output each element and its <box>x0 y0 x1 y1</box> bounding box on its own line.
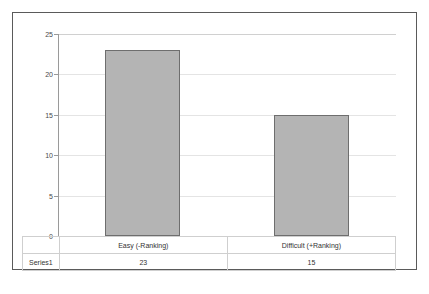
y-tick-mark-20 <box>54 74 58 75</box>
table-header-category-1: Difficult (+Ranking) <box>227 237 395 254</box>
chart-frame: 0510152025 Easy (-Ranking) Difficult (+R… <box>12 12 417 270</box>
y-tick-mark-15 <box>54 115 58 116</box>
y-tick-mark-10 <box>54 155 58 156</box>
bar-1 <box>274 115 349 236</box>
plot-area <box>58 34 396 236</box>
table-value-1: 15 <box>227 254 395 271</box>
y-axis-line <box>58 34 59 236</box>
y-tick-label-5: 5 <box>49 192 53 199</box>
y-tick-label-25: 25 <box>45 31 53 38</box>
chart-data-table: Easy (-Ranking) Difficult (+Ranking) Ser… <box>22 236 396 271</box>
y-tick-mark-5 <box>54 196 58 197</box>
y-tick-mark-25 <box>54 34 58 35</box>
bar-0 <box>105 50 180 236</box>
gridline-25 <box>58 34 396 35</box>
y-tick-label-15: 15 <box>45 111 53 118</box>
table-header-category-0: Easy (-Ranking) <box>59 237 227 254</box>
table-value-0: 23 <box>59 254 227 271</box>
y-axis-tick-labels: 0510152025 <box>13 34 53 236</box>
y-tick-label-10: 10 <box>45 152 53 159</box>
table-row: Series1 23 15 <box>23 254 396 271</box>
y-tick-label-20: 20 <box>45 71 53 78</box>
table-corner-cell <box>23 237 60 254</box>
table-row-categories: Easy (-Ranking) Difficult (+Ranking) <box>23 237 396 254</box>
table-series-label: Series1 <box>23 254 60 271</box>
